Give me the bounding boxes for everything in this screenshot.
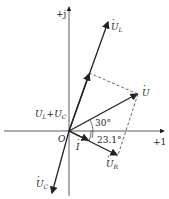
dot-u: ·	[143, 81, 146, 91]
imag-axis-label: +j	[56, 9, 66, 19]
angle-arc-23	[89, 131, 91, 141]
angle-label-23: 23.1°	[97, 135, 122, 145]
dot-uc: ·	[37, 172, 40, 182]
label-ul-plus-uc: UL+UC	[35, 109, 67, 120]
dot-i: ·	[77, 135, 80, 145]
origin-label: O	[58, 134, 66, 144]
angle-label-30: 30°	[95, 118, 111, 128]
dot-ul: ·	[112, 15, 115, 25]
real-axis-label: +1	[153, 137, 166, 147]
dashed-ul-to-u	[89, 73, 138, 94]
dot-ur: ·	[107, 152, 110, 162]
phasor-diagram: +j +1 O UL · U · UR · UC · I · UL+UC 30°…	[0, 0, 169, 199]
